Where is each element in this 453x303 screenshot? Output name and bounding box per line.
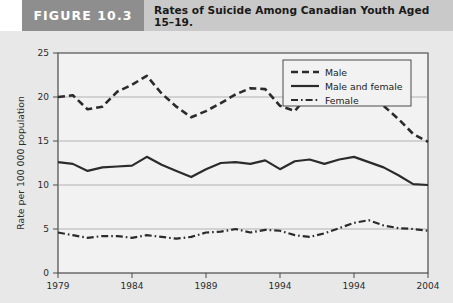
chart-area: 0510152025 197919841989199419942004 Rate…: [0, 31, 453, 303]
y-axis-title: Rate per 100 000 population: [15, 96, 26, 230]
y-axis-tick-label: 25: [38, 48, 49, 58]
legend-label-female: Female: [325, 95, 359, 106]
y-axis-tick-label: 10: [38, 180, 50, 190]
x-axis-tick-label: 1979: [47, 281, 70, 291]
figure-number-label: FIGURE 10.3: [33, 8, 132, 23]
x-axis-tick-label: 1989: [195, 281, 218, 291]
y-axis-tick-label: 5: [43, 224, 49, 234]
figure-header: FIGURE 10.3 Rates of Suicide Among Canad…: [0, 0, 453, 31]
x-axis-tick-label: 1994: [269, 281, 292, 291]
figure-header-spacer: [0, 0, 22, 31]
x-axis-tick-label: 2004: [417, 281, 440, 291]
y-axis: 0510152025: [38, 48, 58, 278]
x-axis-tick-label: 1994: [343, 281, 366, 291]
figure-title: Rates of Suicide Among Canadian Youth Ag…: [154, 4, 453, 28]
x-axis-tick-label: 1984: [121, 281, 144, 291]
y-axis-tick-label: 15: [38, 136, 49, 146]
suicide-rates-line-chart: 0510152025 197919841989199419942004 Rate…: [0, 31, 453, 303]
legend-label-male-and-female: Male and female: [325, 81, 403, 92]
y-axis-tick-label: 20: [38, 92, 50, 102]
legend-label-male: Male: [325, 67, 347, 78]
chart-legend: MaleMale and femaleFemale: [283, 60, 411, 106]
figure-number-box: FIGURE 10.3: [22, 0, 144, 31]
x-axis: 197919841989199419942004: [47, 273, 440, 291]
figure-title-box: Rates of Suicide Among Canadian Youth Ag…: [144, 0, 453, 31]
y-axis-tick-label: 0: [43, 268, 49, 278]
